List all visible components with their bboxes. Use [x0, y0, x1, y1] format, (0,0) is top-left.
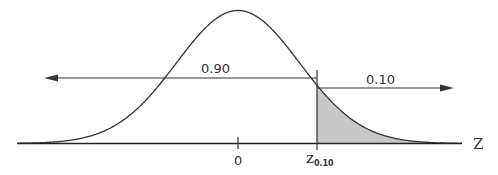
bell-curve [17, 11, 462, 144]
right-area-label: 0.10 [366, 72, 395, 87]
tick-z-label: z0.10 [306, 149, 334, 168]
tick-z-main: z [306, 149, 314, 167]
left-arrowhead-icon [44, 75, 58, 82]
tick-z-subscript: 0.10 [314, 159, 334, 168]
left-area-label: 0.90 [201, 61, 230, 76]
tick-zero-label: 0 [234, 153, 242, 168]
normal-distribution-diagram: 0.90 0.10 Z 0 z0.10 [0, 0, 498, 175]
z-axis-label: Z [473, 135, 483, 153]
shaded-tail-region [317, 85, 462, 144]
right-arrowhead-icon [440, 85, 454, 92]
